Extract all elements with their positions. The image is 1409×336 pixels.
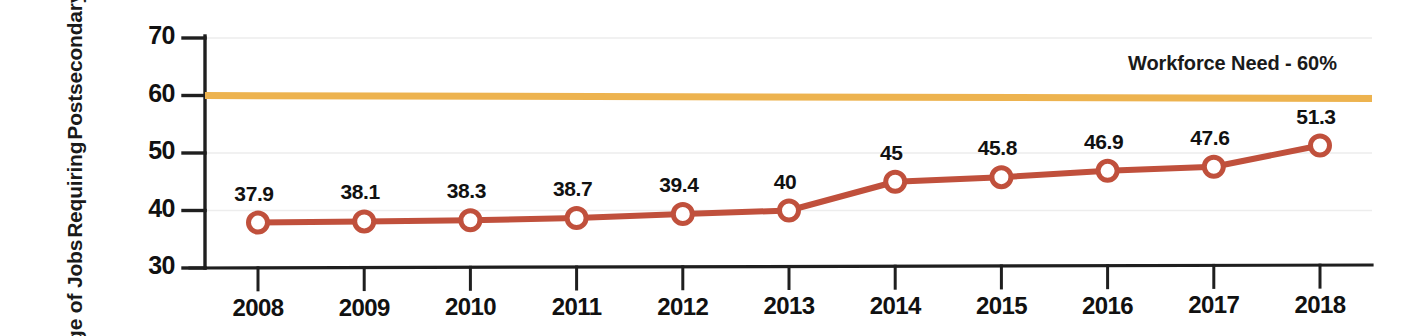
y-axis-tick-label: 60: [119, 79, 175, 108]
x-axis-tick-label: 2009: [318, 294, 410, 322]
data-point-label: 37.9: [219, 182, 289, 206]
data-point-label: 40: [750, 170, 820, 194]
data-point-label: 39.4: [644, 173, 714, 197]
y-axis-tick-label: 40: [119, 194, 175, 223]
y-axis-tick-label: 50: [119, 136, 175, 165]
x-axis-tick-label: 2013: [743, 292, 835, 320]
x-axis-tick-label: 2016: [1062, 292, 1154, 320]
x-axis-tick-label: 2018: [1274, 291, 1366, 319]
threshold-annotation-label: Workforce Need - 60%: [1128, 52, 1337, 75]
y-axis-tick-label: 70: [119, 21, 175, 50]
x-axis-tick-label: 2010: [424, 293, 516, 321]
data-point-label: 45: [856, 141, 926, 165]
data-point-label: 45.8: [962, 136, 1032, 160]
x-axis-tick-label: 2015: [955, 292, 1047, 320]
x-axis-tick-label: 2012: [637, 293, 729, 321]
data-point-label: 38.3: [431, 179, 501, 203]
y-axis-tick-label: 30: [119, 251, 175, 280]
threshold-line: [205, 96, 1372, 99]
x-axis-tick-label: 2017: [1168, 291, 1260, 319]
data-point-label: 51.3: [1281, 105, 1351, 129]
chart-container: Percentage of Jobs Requiring Postseconda…: [0, 0, 1409, 336]
x-axis-tick-label: 2008: [212, 294, 304, 322]
x-axis-tick-label: 2011: [531, 293, 623, 321]
y-axis-ticks: [183, 38, 205, 268]
data-point-label: 47.6: [1175, 126, 1245, 150]
x-axis-tick-label: 2014: [849, 292, 941, 320]
plot-area: [0, 0, 1409, 336]
data-point-label: 46.9: [1069, 130, 1139, 154]
data-point-label: 38.1: [325, 180, 395, 204]
data-point-label: 38.7: [538, 177, 608, 201]
